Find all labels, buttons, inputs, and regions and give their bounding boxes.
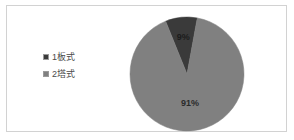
pie-slice-label-2: 91% [181, 98, 199, 108]
pie-chart: 9%91% [129, 16, 245, 132]
figure-root: 1板式 2塔式 9%91% [0, 0, 294, 140]
chart-frame: 1板式 2塔式 9%91% [6, 5, 287, 132]
chart-legend: 1板式 2塔式 [43, 48, 123, 82]
legend-item-label-1: 1板式 [52, 52, 75, 62]
legend-item-label-2: 2塔式 [52, 69, 75, 79]
legend-swatch-icon-1 [43, 54, 49, 60]
legend-item-1[interactable]: 1板式 [43, 48, 123, 65]
legend-item-2[interactable]: 2塔式 [43, 65, 123, 82]
pie-slice-label-1: 9% [177, 32, 190, 42]
legend-swatch-icon-2 [43, 71, 49, 77]
pie-svg: 9%91% [129, 16, 245, 132]
